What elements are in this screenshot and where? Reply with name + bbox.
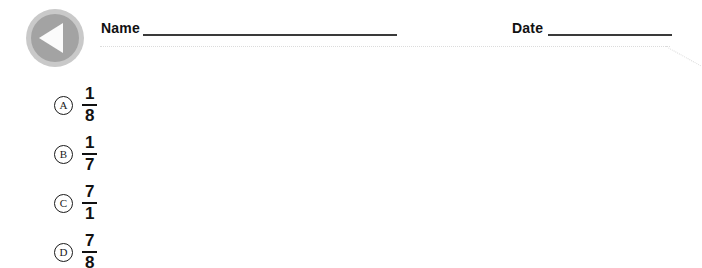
answer-choice-c[interactable]: C 7 1 — [54, 180, 97, 226]
choice-c-numerator: 7 — [82, 183, 97, 202]
choice-a-numerator: 1 — [82, 85, 97, 104]
back-triangle-icon[interactable] — [26, 9, 84, 67]
date-input-rule[interactable] — [548, 34, 672, 36]
choice-a-denominator: 8 — [82, 106, 97, 125]
choice-letter-d: D — [54, 243, 73, 262]
choice-c-denominator: 1 — [82, 204, 97, 223]
choice-fraction-c: 7 1 — [82, 183, 97, 224]
back-icon-triangle — [39, 23, 63, 53]
choice-b-numerator: 1 — [82, 134, 97, 153]
choice-b-denominator: 7 — [82, 155, 97, 174]
choice-letter-b: B — [54, 145, 73, 164]
choice-letter-a: A — [54, 96, 73, 115]
worksheet-header: Name Date — [0, 0, 702, 78]
header-divider-dotted-diagonal — [666, 46, 701, 66]
worksheet-page: Name Date A 1 8 B 1 7 C 7 — [0, 0, 702, 268]
answer-choice-d[interactable]: D 7 8 — [54, 229, 97, 268]
date-label: Date — [512, 20, 543, 36]
name-input-rule[interactable] — [143, 34, 397, 36]
choice-d-denominator: 8 — [82, 253, 97, 268]
choice-letter-c: C — [54, 194, 73, 213]
choice-fraction-d: 7 8 — [82, 232, 97, 268]
choice-fraction-a: 1 8 — [82, 85, 97, 126]
answer-choice-a[interactable]: A 1 8 — [54, 82, 97, 128]
header-divider-dotted — [100, 46, 670, 47]
answer-choice-b[interactable]: B 1 7 — [54, 131, 97, 177]
choice-d-numerator: 7 — [82, 232, 97, 251]
choice-fraction-b: 1 7 — [82, 134, 97, 175]
name-label: Name — [101, 20, 140, 36]
